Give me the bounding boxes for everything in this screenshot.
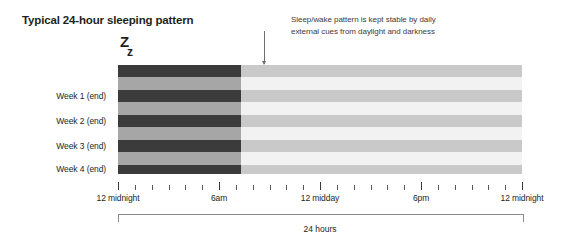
axis-tick-minor-2h xyxy=(152,185,153,190)
night-segment xyxy=(118,102,241,115)
sleep-row-3-awake xyxy=(118,102,522,115)
z-small-glyph: z xyxy=(127,46,133,58)
day-segment xyxy=(241,115,522,127)
sleep-row-6-sleep xyxy=(118,140,522,152)
day-segment xyxy=(241,90,522,102)
axis-tick-minor-23h xyxy=(505,185,506,190)
day-segment xyxy=(241,77,522,90)
page-title: Typical 24-hour sleeping pattern xyxy=(22,14,193,26)
week-label-2: Week 2 (end) xyxy=(56,116,106,126)
axis-tick-minor-16h xyxy=(387,185,388,190)
sleep-pattern-chart xyxy=(118,65,522,174)
axis-tick-minor-1h xyxy=(135,185,136,190)
week-label-4: Week 4 (end) xyxy=(56,164,106,174)
axis-tick-minor-17h xyxy=(404,185,405,190)
sleep-row-7-awake xyxy=(118,152,522,165)
annotation-line-1: Sleep/wake pattern is kept stable by dai… xyxy=(291,14,521,26)
axis-tick-minor-7h xyxy=(236,185,237,190)
axis-tick-minor-9h xyxy=(270,185,271,190)
time-axis-ticks xyxy=(118,180,522,190)
time-axis-labels: 12 midnight6am12 midday6pm12 midnight xyxy=(0,193,580,207)
week-label-1: Week 1 (end) xyxy=(56,91,106,101)
night-segment xyxy=(118,77,241,90)
night-segment xyxy=(118,127,241,140)
axis-label-18h: 6pm xyxy=(413,193,429,203)
axis-tick-minor-22h xyxy=(488,185,489,190)
axis-tick-minor-20h xyxy=(455,185,456,190)
duration-label: 24 hours xyxy=(303,224,336,234)
sleep-row-8-sleep xyxy=(118,165,522,174)
axis-label-24h: 12 midnight xyxy=(501,193,544,203)
axis-tick-major-24h xyxy=(522,182,523,190)
axis-tick-minor-10h xyxy=(286,185,287,190)
duration-bracket xyxy=(118,214,524,222)
week-label-3: Week 3 (end) xyxy=(56,141,106,151)
axis-tick-major-18h xyxy=(421,182,422,190)
axis-tick-major-12h xyxy=(320,182,321,190)
day-segment xyxy=(241,127,522,140)
axis-tick-minor-5h xyxy=(202,185,203,190)
axis-label-6h: 6am xyxy=(211,193,227,203)
night-segment xyxy=(118,65,241,77)
sleep-row-4-sleep xyxy=(118,115,522,127)
sleep-row-1-awake xyxy=(118,77,522,90)
annotation-line-2: external cues from daylight and darkness xyxy=(291,26,521,38)
day-segment xyxy=(241,152,522,165)
axis-tick-minor-19h xyxy=(438,185,439,190)
axis-tick-minor-11h xyxy=(303,185,304,190)
night-segment xyxy=(118,165,241,174)
axis-tick-minor-3h xyxy=(169,185,170,190)
annotation-text: Sleep/wake pattern is kept stable by dai… xyxy=(291,14,521,37)
axis-label-0h: 12 midnight xyxy=(97,193,140,203)
axis-tick-major-0h xyxy=(118,182,119,190)
axis-tick-major-6h xyxy=(219,182,220,190)
sleep-row-5-awake xyxy=(118,127,522,140)
axis-tick-minor-15h xyxy=(371,185,372,190)
sleep-zzz-icon: Z z xyxy=(120,36,160,64)
day-segment xyxy=(241,165,522,174)
axis-tick-minor-8h xyxy=(253,185,254,190)
night-segment xyxy=(118,140,241,152)
day-segment xyxy=(241,102,522,115)
axis-tick-minor-4h xyxy=(185,185,186,190)
axis-tick-minor-21h xyxy=(472,185,473,190)
sleep-row-0-sleep xyxy=(118,65,522,77)
day-segment xyxy=(241,65,522,77)
annotation-pointer-arrow xyxy=(264,31,265,64)
axis-label-12h: 12 midday xyxy=(301,193,339,203)
day-segment xyxy=(241,140,522,152)
week-label-group: Week 1 (end)Week 2 (end)Week 3 (end)Week… xyxy=(0,65,112,174)
axis-tick-minor-13h xyxy=(337,185,338,190)
night-segment xyxy=(118,152,241,165)
night-segment xyxy=(118,90,241,102)
sleep-row-2-sleep xyxy=(118,90,522,102)
night-segment xyxy=(118,115,241,127)
axis-tick-minor-14h xyxy=(354,185,355,190)
